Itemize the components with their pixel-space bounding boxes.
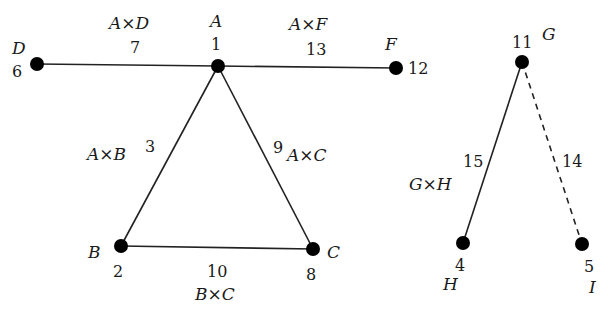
- edge-a-f-label: A×F: [287, 14, 329, 34]
- edge-a-f-number: 13: [306, 40, 326, 59]
- node-a: [211, 59, 225, 73]
- edge-a-f: [218, 66, 396, 68]
- node-c: [306, 242, 320, 256]
- node-d-number: 6: [12, 62, 22, 81]
- node-f: [389, 61, 403, 75]
- node-i: [575, 237, 589, 251]
- edge-g-i-number: 14: [562, 152, 582, 171]
- node-g-label: G: [542, 24, 556, 44]
- edge-a-b-label: A×B: [85, 144, 126, 164]
- node-f-number: 12: [408, 59, 428, 78]
- node-b-number: 2: [113, 262, 123, 281]
- edge-b-c-number: 10: [207, 262, 227, 281]
- node-d-label: D: [11, 38, 26, 58]
- node-h-label: H: [442, 274, 459, 294]
- edge-a-d-number: 7: [130, 38, 140, 57]
- node-f-label: F: [384, 34, 398, 54]
- edge-b-c-label: B×C: [194, 284, 235, 304]
- edge-a-c-number: 9: [273, 138, 283, 157]
- edge-g-h-label: G×H: [409, 174, 453, 194]
- node-g: [515, 55, 529, 69]
- edge-a-d: [37, 64, 218, 66]
- edge-b-c: [121, 246, 313, 249]
- node-i-number: 5: [584, 257, 594, 276]
- diagram-canvas: A 1 B 2 C 8 D 6 F 12 G 11 H 4 I 5 A×D 7 …: [0, 0, 608, 315]
- node-c-label: C: [327, 242, 340, 262]
- edge-a-c-label: A×C: [285, 145, 327, 165]
- node-c-number: 8: [306, 265, 316, 284]
- node-h-number: 4: [455, 256, 465, 275]
- node-b-label: B: [87, 242, 101, 262]
- node-h: [456, 236, 470, 250]
- node-a-label: A: [208, 11, 222, 31]
- node-d: [30, 57, 44, 71]
- edge-g-h-number: 15: [463, 152, 483, 171]
- edge-a-b: [121, 66, 218, 246]
- edge-a-b-number: 3: [145, 137, 155, 156]
- node-b: [114, 239, 128, 253]
- edge-a-d-label: A×D: [107, 13, 150, 33]
- node-a-number: 1: [211, 35, 221, 54]
- node-i-label: I: [588, 277, 596, 297]
- node-g-number: 11: [512, 33, 532, 52]
